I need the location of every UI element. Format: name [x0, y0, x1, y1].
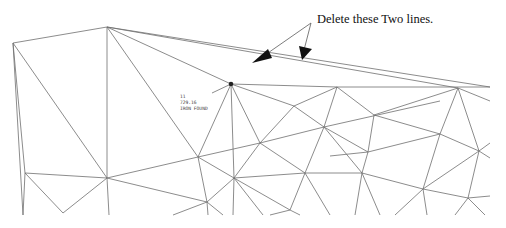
annotation-text: Delete these Two lines.: [317, 12, 433, 26]
iron-found-point-marker: [229, 82, 234, 87]
survey-triangulation-diagram: Delete these Two lines. 11 729.16 IRON F…: [0, 0, 506, 228]
annotation-arrows: [252, 23, 312, 63]
triangulation-mesh: [13, 27, 490, 215]
point-label-elevation: 729.16: [180, 100, 197, 105]
point-label-description: IRON FOUND: [180, 106, 208, 111]
point-label-number: 11: [180, 94, 186, 99]
